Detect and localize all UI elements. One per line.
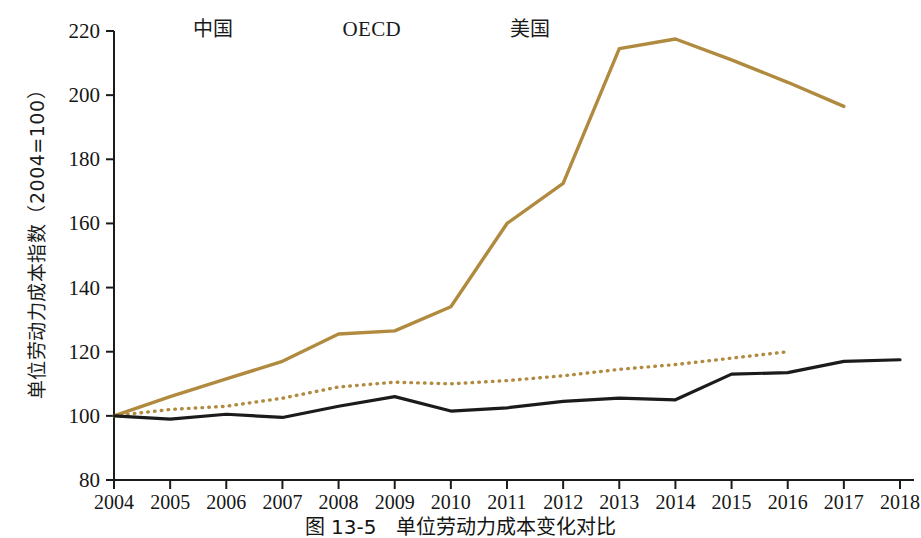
x-tick-label: 2010 xyxy=(431,491,471,512)
x-tick-label: 2014 xyxy=(655,491,695,512)
figure-caption: 图 13-5 单位劳动力成本变化对比 xyxy=(0,512,921,538)
chart-series-layer xyxy=(114,39,900,419)
x-tick-label: 2011 xyxy=(487,491,526,512)
chart-plot-area: 80100120140160180200220 2004200520062007… xyxy=(0,0,921,512)
chart-figure: 中国 OECD 美国 单位劳动力成本指数（2004=100） 801001201… xyxy=(0,0,921,538)
x-tick-label: 2009 xyxy=(375,491,415,512)
x-tick-label: 2004 xyxy=(94,491,134,512)
y-tick-label: 160 xyxy=(69,211,101,235)
x-tick-label: 2005 xyxy=(150,491,190,512)
x-tick-label: 2012 xyxy=(543,491,583,512)
x-tick-label: 2016 xyxy=(768,491,808,512)
x-tick-label: 2013 xyxy=(599,491,639,512)
chart-axes xyxy=(114,31,914,480)
y-axis-ticks: 80100120140160180200220 xyxy=(69,19,115,492)
x-tick-label: 2017 xyxy=(824,491,864,512)
x-tick-label: 2006 xyxy=(206,491,246,512)
series-line-usa xyxy=(114,360,900,419)
y-tick-label: 180 xyxy=(69,147,101,171)
y-tick-label: 100 xyxy=(69,404,101,428)
y-tick-label: 220 xyxy=(69,19,101,43)
x-axis-ticks: 2004200520062007200820092010201120122013… xyxy=(94,480,920,512)
x-tick-label: 2015 xyxy=(712,491,752,512)
x-tick-label: 2007 xyxy=(262,491,302,512)
x-tick-label: 2018 xyxy=(880,491,920,512)
series-line-china xyxy=(114,39,844,416)
y-tick-label: 140 xyxy=(69,276,101,300)
y-tick-label: 120 xyxy=(69,340,101,364)
x-tick-label: 2008 xyxy=(319,491,359,512)
y-tick-label: 80 xyxy=(79,468,100,492)
y-tick-label: 200 xyxy=(69,83,101,107)
